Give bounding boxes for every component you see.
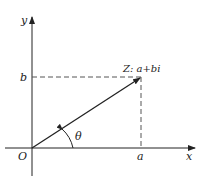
complex-plane-diagram: y x O b a Z: a+bi θ — [0, 0, 203, 184]
x-axis-label: x — [186, 150, 193, 163]
angle-arc — [62, 129, 73, 148]
origin-label: O — [18, 150, 27, 163]
imag-part-label: b — [20, 71, 27, 84]
vector-oz — [32, 78, 140, 148]
y-axis-label: y — [20, 14, 28, 27]
real-part-label: a — [137, 150, 144, 163]
point-z-label: Z: a+bi — [122, 63, 160, 74]
angle-theta-label: θ — [75, 130, 82, 143]
